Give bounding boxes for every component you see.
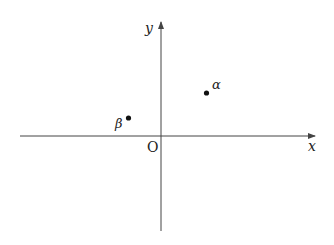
point-alpha (204, 90, 209, 95)
x-axis-label: x (308, 138, 316, 154)
y-axis-label: y (144, 20, 154, 36)
origin-label: O (147, 139, 158, 155)
point-beta (126, 115, 131, 120)
point-beta-label: β (114, 116, 123, 131)
point-alpha-label: α (212, 77, 221, 92)
coordinate-plane: y x O α β (0, 0, 334, 245)
